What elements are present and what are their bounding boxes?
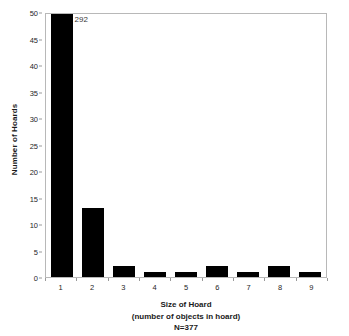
y-tick-mark (39, 225, 42, 226)
y-tick-mark (39, 278, 42, 279)
y-tick-mark (39, 145, 42, 146)
x-tick-mark (45, 278, 46, 281)
bar (268, 266, 290, 277)
y-tick-label: 20 (30, 168, 38, 177)
x-tick-label: 9 (309, 283, 313, 292)
bar-slot (295, 14, 326, 277)
y-tick-mark (39, 198, 42, 199)
bar-slot (233, 14, 264, 277)
bar (206, 266, 228, 277)
x-tick-mark (108, 278, 109, 281)
x-tick-label: 8 (278, 283, 282, 292)
x-tick-mark (76, 278, 77, 281)
bar-slot (139, 14, 170, 277)
y-tick-label: 25 (30, 141, 38, 150)
caption-line-3: N=377 (45, 322, 327, 334)
bar-slot (264, 14, 295, 277)
y-tick-label: 5 (34, 247, 38, 256)
x-tick-label: 1 (59, 283, 63, 292)
x-tick-label: 2 (90, 283, 94, 292)
y-tick-label: 10 (30, 221, 38, 230)
y-tick-mark (39, 13, 42, 14)
x-tick-mark (139, 278, 140, 281)
bar-chart: Number of Hoards 05101520253035404550 29… (0, 0, 349, 336)
bar-slot: 292 (46, 14, 77, 277)
x-tick-label: 4 (153, 283, 157, 292)
x-axis: 123456789 (45, 278, 327, 300)
bar-slot (202, 14, 233, 277)
y-tick-label: 35 (30, 88, 38, 97)
y-tick-label: 40 (30, 62, 38, 71)
x-tick-mark (202, 278, 203, 281)
y-tick-mark (39, 172, 42, 173)
bar: 292 (51, 13, 73, 277)
bar (113, 266, 135, 277)
y-tick-label: 15 (30, 194, 38, 203)
y-axis-title-text: Number of Hoards (11, 103, 20, 174)
bar (299, 272, 321, 277)
x-tick-mark (264, 278, 265, 281)
x-axis-caption: Size of Hoard (number of objects in hoar… (45, 299, 327, 334)
y-tick-label: 50 (30, 9, 38, 18)
x-tick-mark (296, 278, 297, 281)
y-tick-mark (39, 66, 42, 67)
x-tick-label: 5 (184, 283, 188, 292)
y-tick-label: 0 (34, 274, 38, 283)
x-tick-mark (170, 278, 171, 281)
x-tick-label: 3 (121, 283, 125, 292)
x-tick-label: 6 (215, 283, 219, 292)
x-tick-mark (327, 278, 328, 281)
y-tick-label: 45 (30, 35, 38, 44)
bars-layer: 292 (46, 14, 326, 277)
plot-area: 292 (45, 13, 327, 278)
y-tick-mark (39, 119, 42, 120)
caption-line-1: Size of Hoard (45, 299, 327, 311)
bar (237, 272, 259, 277)
bar (175, 272, 197, 277)
bar (82, 208, 104, 277)
bar (144, 272, 166, 277)
y-tick-label: 30 (30, 115, 38, 124)
y-tick-mark (39, 251, 42, 252)
x-tick-label: 7 (247, 283, 251, 292)
bar-slot (77, 14, 108, 277)
y-axis-ticks: 05101520253035404550 (22, 13, 42, 278)
bar-slot (108, 14, 139, 277)
caption-line-2: (number of objects in hoard) (45, 311, 327, 323)
y-tick-mark (39, 39, 42, 40)
y-tick-mark (39, 92, 42, 93)
x-tick-mark (233, 278, 234, 281)
bar-slot (170, 14, 201, 277)
